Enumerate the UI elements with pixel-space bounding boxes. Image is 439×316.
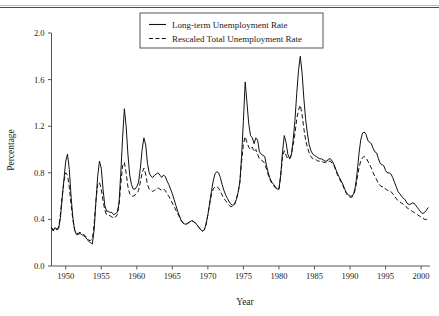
- x-tick-label: 1985: [306, 271, 323, 281]
- x-tick-label: 1960: [128, 271, 145, 281]
- y-tick-label: 1.6: [34, 75, 45, 85]
- y-axis-ticks: [48, 33, 52, 266]
- y-tick-label: 0.0: [34, 261, 45, 271]
- x-tick-label: 2000: [413, 271, 430, 281]
- y-tick-label: 0.4: [34, 214, 45, 224]
- legend-label-0: Long-term Unemployment Rate: [172, 20, 287, 30]
- y-tick-label: 1.2: [34, 121, 45, 131]
- x-tick-label: 1950: [57, 271, 74, 281]
- x-tick-label: 1995: [377, 271, 394, 281]
- y-axis-title: Percentage: [6, 129, 16, 171]
- x-tick-label: 1975: [235, 271, 252, 281]
- legend-label-1: Rescaled Total Unemployment Rate: [172, 34, 302, 44]
- x-axis-title: Year: [236, 297, 254, 307]
- x-tick-label: 1990: [342, 271, 359, 281]
- x-tick-label: 1980: [270, 271, 287, 281]
- series-long-term-unemployment-rate: [52, 56, 429, 244]
- x-axis-ticks: [66, 266, 421, 270]
- y-tick-label: 0.8: [34, 168, 45, 178]
- x-axis-tick-labels: 1950195519601965197019751980198519901995…: [57, 271, 429, 281]
- x-tick-label: 1955: [93, 271, 110, 281]
- unemployment-line-chart: 1950195519601965197019751980198519901995…: [0, 0, 439, 316]
- x-tick-label: 1965: [164, 271, 181, 281]
- y-axis-tick-labels: 0.00.40.81.21.62.0: [34, 28, 45, 271]
- x-tick-label: 1970: [199, 271, 216, 281]
- y-tick-label: 2.0: [34, 28, 45, 38]
- chart-legend: Long-term Unemployment Rate Rescaled Tot…: [140, 13, 323, 48]
- figure-container: 1950195519601965197019751980198519901995…: [0, 0, 439, 316]
- series-rescaled-total-unemployment-rate: [52, 105, 429, 240]
